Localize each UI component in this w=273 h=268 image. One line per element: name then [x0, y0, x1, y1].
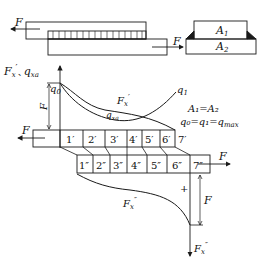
cell-5-prime: 5′ [145, 134, 154, 145]
cell-4-prime: 4′ [129, 134, 138, 145]
plus-sign: + [180, 183, 188, 194]
cell-1-prime: 1′ [66, 134, 75, 145]
area-a1-label: A1 [215, 24, 228, 38]
lower-axis-label: Fx″ [193, 240, 208, 256]
cell-6-double: 6″ [172, 160, 182, 171]
cell-1-double: 1″ [79, 160, 89, 171]
top-force-left-label: F [14, 16, 23, 29]
lap-joint-diagram: F F A1 A2 Fx′、qxa F q0 q1 Fx′ qxa A₁=A₂ … [0, 0, 273, 268]
cell-7-prime: 7′ [178, 134, 187, 145]
cell-7-double: 7″ [193, 160, 203, 171]
axis-label: Fx′、qxa [3, 63, 39, 79]
fx-double-prime-label: Fx″ [122, 195, 137, 211]
cell-6-prime: 6′ [162, 134, 171, 145]
fx-prime-curve [60, 83, 175, 130]
upper-plate [26, 22, 146, 39]
fillet-weld-right [247, 31, 256, 39]
area-a2-label: A2 [215, 40, 229, 54]
lower-bar-force-label: F [218, 150, 227, 163]
upper-bar-force-label: F [21, 124, 30, 137]
top-force-right-label: F [172, 35, 181, 48]
cell-3-double: 3″ [113, 160, 123, 171]
cell-2-double: 2″ [96, 160, 106, 171]
weld-hatch [53, 31, 142, 39]
lower-f-label: F [203, 194, 212, 207]
condition-area-equal: A₁=A₂ [187, 103, 219, 114]
q1-label: q1 [177, 84, 188, 97]
fx-prime-label: Fx′ [116, 92, 130, 108]
cell-3-prime: 3′ [110, 134, 119, 145]
shear-connectors [60, 147, 190, 155]
top-view [11, 22, 183, 55]
cell-2-prime: 2′ [88, 134, 97, 145]
cell-4-double: 4″ [131, 160, 141, 171]
lower-plate [48, 39, 167, 55]
fillet-weld-left [186, 31, 194, 39]
lower-bar-cells: 1″ 2″ 3″ 4″ 5″ 6″ 7″ [79, 160, 203, 171]
condition-q-equal: q₀=q₁=qmax [180, 116, 239, 129]
cell-5-double: 5″ [151, 160, 161, 171]
f-dimension-label: F [38, 102, 49, 111]
